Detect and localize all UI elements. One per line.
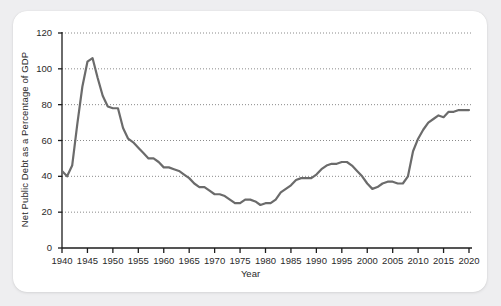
y-tick-label: 40: [26, 171, 52, 181]
gridlines: [62, 33, 471, 212]
axis-ticks: [58, 33, 469, 253]
y-tick-label: 80: [26, 100, 52, 110]
y-tick-label: 60: [26, 136, 52, 146]
y-tick-label: 100: [26, 64, 52, 74]
y-tick-label: 20: [26, 207, 52, 217]
chart-page: Net Public Debt as a Percentage of GDP Y…: [0, 0, 501, 306]
data-line: [62, 58, 469, 205]
chart-figure: Net Public Debt as a Percentage of GDP Y…: [0, 0, 501, 306]
axis-lines: [62, 32, 472, 248]
x-tick-label: 2020: [449, 256, 489, 266]
data-line-series: [62, 58, 469, 205]
y-tick-label: 0: [26, 243, 52, 253]
y-tick-label: 120: [26, 28, 52, 38]
